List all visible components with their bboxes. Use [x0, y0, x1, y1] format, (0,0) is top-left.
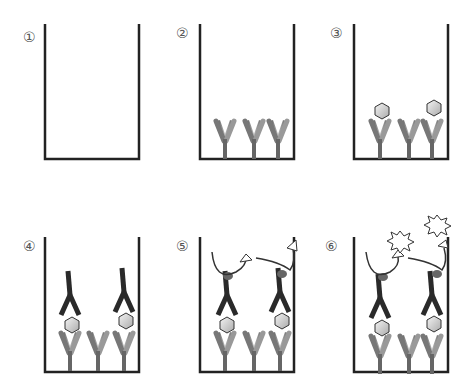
- elisa-diagram: [0, 0, 471, 390]
- panel-2: [200, 24, 294, 159]
- panel-3: [354, 24, 448, 159]
- step-label-5: ⑤: [176, 238, 189, 254]
- panel-4: [45, 237, 139, 372]
- step-label-1: ①: [23, 29, 36, 45]
- panel-5: [200, 237, 297, 372]
- step-label-2: ②: [176, 25, 189, 41]
- step-label-6: ⑥: [325, 238, 338, 254]
- panel-1: [45, 24, 139, 159]
- panel-6: [354, 215, 451, 374]
- step-label-3: ③: [330, 25, 343, 41]
- step-label-4: ④: [23, 238, 36, 254]
